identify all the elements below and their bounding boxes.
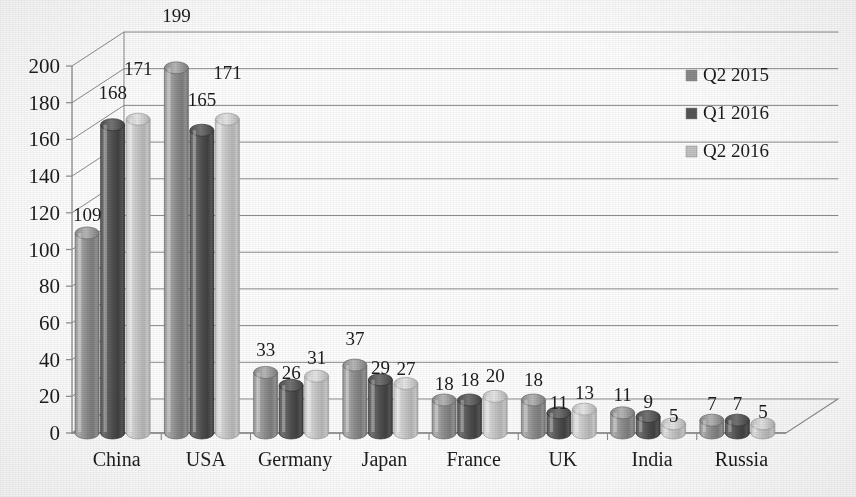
bar-data-label: 109 xyxy=(73,204,102,225)
chart-canvas: 020406080100120140160180200 109168171199… xyxy=(0,0,856,497)
bar-highlight xyxy=(104,125,107,432)
y-axis-tick-label: 200 xyxy=(29,54,61,78)
bar-chart: 020406080100120140160180200 109168171199… xyxy=(0,0,856,497)
bar-data-label: 31 xyxy=(307,347,326,368)
bar-data-label: 18 xyxy=(524,369,543,390)
bar xyxy=(432,394,456,439)
bar-highlight xyxy=(397,383,400,432)
bar xyxy=(394,377,418,439)
bar xyxy=(521,394,545,439)
bar-data-label: 33 xyxy=(256,339,275,360)
bar-data-label: 11 xyxy=(613,384,631,405)
bar-highlight xyxy=(754,424,757,432)
bar-data-label: 199 xyxy=(162,5,191,26)
bar xyxy=(75,227,99,439)
x-axis-tick-label: Japan xyxy=(362,448,408,471)
bar xyxy=(190,124,214,439)
bar-highlight xyxy=(639,416,642,432)
bar xyxy=(164,62,188,439)
legend-swatch xyxy=(686,70,697,81)
x-axis-tick-label: France xyxy=(446,448,501,470)
bar-data-label: 5 xyxy=(758,401,768,422)
y-axis-tick-label: 160 xyxy=(29,127,61,151)
bar xyxy=(725,414,749,439)
y-axis-tick-label: 80 xyxy=(39,274,60,298)
bar xyxy=(305,370,329,439)
bar-data-label: 13 xyxy=(575,382,594,403)
bar-highlight xyxy=(665,424,668,432)
bar xyxy=(636,410,660,439)
bar-data-label: 168 xyxy=(98,82,127,103)
legend-label: Q2 2015 xyxy=(703,64,769,85)
bar-data-label: 171 xyxy=(213,62,242,83)
bar-highlight xyxy=(614,413,617,432)
bar-data-label: 18 xyxy=(435,373,454,394)
bar xyxy=(458,394,482,439)
bar xyxy=(254,366,278,439)
bar-data-label: 26 xyxy=(282,362,301,383)
bar xyxy=(343,359,367,439)
x-axis-tick-label: UK xyxy=(548,448,577,470)
bar-highlight xyxy=(282,385,285,432)
bar-data-label: 11 xyxy=(550,392,568,413)
bar-data-label: 5 xyxy=(669,405,679,426)
bar-highlight xyxy=(486,396,489,432)
bar-data-label: 18 xyxy=(460,369,479,390)
bar-highlight xyxy=(435,400,438,432)
y-axis-tick-label: 60 xyxy=(39,311,60,335)
y-axis-tick-label: 20 xyxy=(39,384,60,408)
bar-highlight xyxy=(167,68,170,432)
bar-data-label: 7 xyxy=(707,393,717,414)
bar xyxy=(279,379,303,439)
y-axis-tick-label: 100 xyxy=(29,238,61,262)
bar-highlight xyxy=(308,376,311,432)
bar-data-label: 9 xyxy=(643,391,653,412)
legend-label: Q2 2016 xyxy=(703,140,769,161)
y-axis-tick-label: 40 xyxy=(39,348,60,372)
bar-data-label: 29 xyxy=(371,357,390,378)
bar-highlight xyxy=(550,413,553,432)
y-axis-tick-label: 0 xyxy=(50,421,61,445)
bar-highlight xyxy=(728,420,731,432)
bar-highlight xyxy=(218,119,221,432)
bar-data-label: 7 xyxy=(733,393,743,414)
bar xyxy=(572,403,596,439)
x-axis-tick-label: Russia xyxy=(715,448,768,470)
bar xyxy=(368,374,392,439)
legend-label: Q1 2016 xyxy=(703,102,769,123)
y-axis-tick-label: 120 xyxy=(29,201,61,225)
bar xyxy=(215,113,239,439)
bar-highlight xyxy=(346,365,349,432)
bar-data-label: 171 xyxy=(124,58,153,79)
x-axis-tick-label: USA xyxy=(186,448,227,470)
bar-highlight xyxy=(575,409,578,432)
bar-data-label: 27 xyxy=(396,358,415,379)
bar xyxy=(483,390,507,439)
bar xyxy=(611,407,635,439)
bar-highlight xyxy=(703,420,706,432)
y-axis-tick-label: 140 xyxy=(29,164,61,188)
bar-highlight xyxy=(524,400,527,432)
bar-highlight xyxy=(129,119,132,432)
bar-data-label: 37 xyxy=(345,328,364,349)
bar-highlight xyxy=(257,372,260,432)
bar-highlight xyxy=(193,130,196,432)
x-axis-tick-label: Germany xyxy=(258,448,332,471)
legend-swatch xyxy=(686,108,697,119)
bar-data-label: 20 xyxy=(486,365,505,386)
bar-data-label: 165 xyxy=(188,89,217,110)
bar xyxy=(101,119,125,439)
legend-swatch xyxy=(686,146,697,157)
bar xyxy=(126,113,150,439)
bar-highlight xyxy=(371,380,374,432)
x-axis-tick-label: India xyxy=(632,448,673,470)
bar-highlight xyxy=(78,233,81,432)
bar xyxy=(700,414,724,439)
x-axis-tick-label: China xyxy=(93,448,141,470)
bar-highlight xyxy=(461,400,464,432)
y-axis-tick-label: 180 xyxy=(29,91,61,115)
